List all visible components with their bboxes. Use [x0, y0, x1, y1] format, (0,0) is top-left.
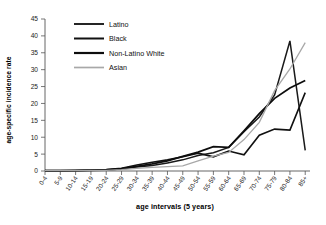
- y-axis-ticks: 051015202530354045: [31, 15, 45, 174]
- series-line-asian: [45, 43, 305, 171]
- y-tick-label: 35: [31, 49, 39, 56]
- x-tick-label: 45-49: [171, 174, 186, 192]
- chart-legend: LatinoBlackNon-Latino WhiteAsian: [74, 20, 165, 73]
- x-tick-label: 85+: [297, 174, 309, 187]
- series-group: [45, 41, 305, 171]
- x-axis-title-group: age intervals (5 years): [136, 202, 214, 211]
- x-tick-label: 30-34: [125, 174, 140, 192]
- legend-label-black: Black: [109, 34, 127, 43]
- x-tick-label: 70-74: [248, 174, 263, 192]
- y-tick-label: 20: [31, 100, 39, 107]
- x-axis-title: age intervals (5 years): [136, 202, 214, 211]
- legend-label-latino: Latino: [109, 20, 129, 29]
- y-tick-label: 5: [34, 151, 38, 158]
- y-tick-label: 10: [31, 134, 39, 141]
- y-axis-title: age-specific incidence rate: [5, 56, 13, 143]
- y-tick-label: 25: [31, 83, 39, 90]
- line-chart: age-specific incidence rate age interval…: [0, 0, 326, 225]
- y-tick-label: 45: [31, 15, 39, 22]
- x-tick-label: 15-19: [79, 174, 94, 192]
- y-tick-label: 0: [34, 167, 38, 174]
- legend-label-asian: Asian: [109, 63, 127, 72]
- x-tick-label: 20-24: [94, 174, 109, 192]
- y-tick-label: 40: [31, 32, 39, 39]
- legend-label-non-latino-white: Non-Latino White: [109, 49, 165, 58]
- x-axis-ticks: 0-45-910-1415-1920-2425-2930-3435-3940-4…: [37, 171, 308, 192]
- series-line-non-latino-white: [45, 80, 305, 170]
- x-tick-label: 0-4: [37, 174, 48, 186]
- x-tick-label: 35-39: [140, 174, 155, 192]
- x-tick-label: 25-29: [110, 174, 125, 192]
- y-tick-label: 30: [31, 66, 39, 73]
- x-tick-label: 50-54: [186, 174, 201, 192]
- x-tick-label: 5-9: [53, 174, 64, 186]
- x-tick-label: 80-84: [278, 174, 293, 192]
- x-tick-label: 40-44: [156, 174, 171, 192]
- x-tick-label: 10-14: [64, 174, 79, 192]
- chart-container: age-specific incidence rate age interval…: [0, 0, 326, 225]
- x-tick-label: 55-59: [202, 174, 217, 192]
- x-tick-label: 60-64: [217, 174, 232, 192]
- y-axis-title-group: age-specific incidence rate: [5, 56, 13, 143]
- x-tick-label: 75-79: [263, 174, 278, 192]
- x-tick-label: 65-69: [232, 174, 247, 192]
- y-tick-label: 15: [31, 117, 39, 124]
